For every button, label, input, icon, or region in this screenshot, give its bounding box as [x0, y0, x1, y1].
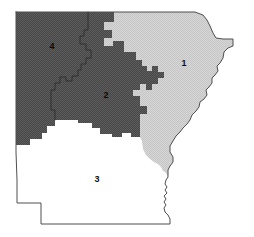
district-3-label: 3 — [94, 174, 99, 184]
district-2-label: 2 — [103, 90, 108, 100]
map-figure: 4 1 2 3 — [0, 0, 254, 237]
arkansas-district-map: 4 1 2 3 — [0, 0, 254, 237]
district-1-label: 1 — [181, 58, 186, 68]
district-4-label: 4 — [49, 41, 54, 51]
